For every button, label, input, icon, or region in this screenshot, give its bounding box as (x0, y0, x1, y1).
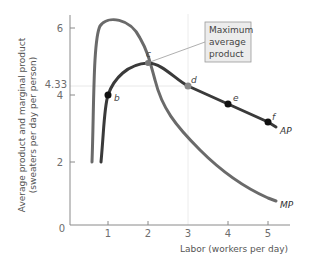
mp-curve-label: MP (280, 200, 294, 210)
y-reference-label: 4.33 (45, 79, 67, 90)
x-tick-label-2: 2 (145, 228, 151, 239)
y-tick-label-2: 2 (57, 157, 63, 168)
y-tick-label-6: 6 (57, 23, 63, 34)
origin-label: 0 (59, 223, 65, 234)
point-label-b: b (114, 93, 120, 103)
annotation-line-3: product (209, 49, 244, 59)
y-tick-label-4: 4 (57, 90, 63, 101)
y-axis-label-line2: (sweaters per day per person) (28, 57, 38, 193)
point-label-e: e (233, 93, 239, 103)
annotation-leader-line (150, 42, 205, 62)
x-tick-label-5: 5 (265, 228, 271, 239)
ap-curve-label: AP (279, 126, 292, 136)
point-c (145, 60, 151, 66)
chart-canvas: 6 4 2 4.33 0 1 2 3 4 5 Labor (workers pe… (0, 0, 313, 260)
point-f (265, 119, 272, 126)
point-e (225, 101, 232, 108)
x-tick-label-4: 4 (225, 228, 231, 239)
x-tick-label-1: 1 (105, 228, 111, 239)
point-label-d: d (191, 75, 197, 85)
y-axis-label-line1: Average product and marginal product (17, 37, 27, 212)
annotation-line-2: average (209, 37, 246, 47)
x-tick-label-3: 3 (185, 228, 191, 239)
point-b (105, 92, 112, 99)
annotation-line-1: Maximum (209, 25, 253, 35)
x-axis-label: Labor (workers per day) (180, 244, 288, 254)
point-label-f: f (272, 112, 277, 122)
point-label-c: c (146, 49, 151, 59)
